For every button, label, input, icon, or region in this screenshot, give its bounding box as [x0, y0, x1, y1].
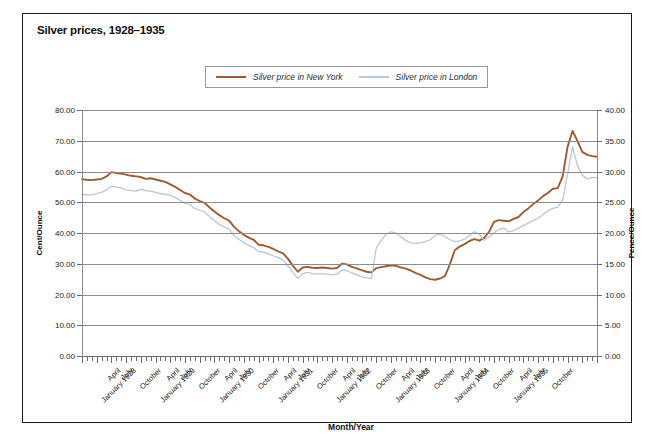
x-axis-tick: [499, 356, 500, 361]
y-axis-right-tick-label: 15.00: [605, 259, 625, 268]
y-axis-left-tick-label: 50.00: [23, 198, 75, 207]
left-axis-title-text: Cent/Ounce: [35, 211, 44, 256]
x-axis-tick: [411, 356, 412, 361]
x-axis-tick: [592, 356, 593, 361]
y-axis-right-tick: [597, 202, 602, 203]
y-axis-left-tick: [77, 356, 82, 357]
x-axis-tick: [97, 356, 98, 363]
x-axis-tick: [308, 356, 309, 361]
x-axis-tick: [553, 356, 554, 363]
x-axis-tick: [420, 356, 421, 363]
x-axis-tick: [519, 356, 520, 361]
x-axis-tick: [386, 356, 387, 361]
x-axis-tick: [234, 356, 235, 361]
y-axis-right-tick-label: 10.00: [605, 290, 625, 299]
y-axis-left-tick: [77, 264, 82, 265]
x-axis-tick: [460, 356, 461, 361]
page-title: Silver prices, 1928–1935: [37, 24, 165, 36]
y-axis-right-tick-label: 5.00: [605, 321, 621, 330]
x-axis-tick: [504, 356, 505, 361]
x-axis-tick: [533, 356, 534, 361]
x-axis-tick: [224, 356, 225, 361]
x-axis-tick: [597, 356, 598, 363]
x-axis-tick-label: October: [138, 366, 163, 391]
x-axis-tick: [450, 356, 451, 363]
gridline: [82, 264, 597, 265]
y-axis-right-tick: [597, 295, 602, 296]
x-axis-tick: [322, 356, 323, 361]
x-axis-tick: [347, 356, 348, 363]
x-axis-tick: [131, 356, 132, 361]
gridline: [82, 233, 597, 234]
x-axis-tick: [249, 356, 250, 361]
x-axis-tick: [425, 356, 426, 361]
y-axis-right-tick-label: 25.00: [605, 198, 625, 207]
legend-swatch-london: [359, 76, 389, 78]
x-axis-tick: [151, 356, 152, 361]
right-axis-title-text: Pence/Ounce: [627, 208, 636, 259]
x-axis-tick: [210, 356, 211, 361]
x-axis-tick: [391, 356, 392, 363]
x-axis-tick: [572, 356, 573, 361]
y-axis-right-tick-label: 0.00: [605, 352, 621, 361]
x-axis-tick: [82, 356, 83, 363]
x-axis-tick-label: October: [256, 366, 281, 391]
x-axis-tick: [523, 356, 524, 363]
x-axis-tick: [273, 356, 274, 363]
y-axis-right-tick-label: 40.00: [605, 106, 625, 115]
y-axis-left-tick: [77, 141, 82, 142]
x-axis-tick: [479, 356, 480, 363]
y-axis-left-tick-label: 80.00: [23, 106, 75, 115]
x-axis-tick: [327, 356, 328, 361]
x-axis-tick-label: October: [432, 366, 457, 391]
x-axis: [82, 356, 597, 357]
x-axis-tick: [514, 356, 515, 361]
x-axis-tick: [381, 356, 382, 361]
y-axis-right-tick: [597, 264, 602, 265]
y-axis-right-tick: [597, 172, 602, 173]
x-axis-tick: [568, 356, 569, 363]
legend-item-london: Silver price in London: [359, 72, 478, 82]
x-axis-tick-label: October: [373, 366, 398, 391]
y-axis-right-tick: [597, 325, 602, 326]
x-axis-tick: [219, 356, 220, 361]
x-axis-tick: [111, 356, 112, 363]
x-axis-tick: [435, 356, 436, 363]
x-axis-tick: [484, 356, 485, 361]
x-axis-tick: [102, 356, 103, 361]
legend-label-london: Silver price in London: [396, 72, 478, 82]
x-axis-tick: [474, 356, 475, 361]
x-axis-tick: [278, 356, 279, 361]
y-axis-right-tick: [597, 110, 602, 111]
x-axis-tick: [577, 356, 578, 361]
x-axis-tick: [283, 356, 284, 361]
x-axis-tick: [494, 356, 495, 363]
x-axis-tick: [107, 356, 108, 361]
x-axis-tick: [92, 356, 93, 361]
x-axis-tick: [313, 356, 314, 361]
x-axis-tick: [352, 356, 353, 361]
x-axis-tick: [455, 356, 456, 361]
y-axis-left-tick: [77, 325, 82, 326]
x-axis-tick: [200, 356, 201, 363]
x-axis-tick: [136, 356, 137, 361]
x-axis-tick: [543, 356, 544, 361]
x-axis-tick: [121, 356, 122, 361]
chart-figure: Silver prices, 1928–1935 Silver price in…: [22, 13, 632, 423]
gridline: [82, 141, 597, 142]
x-axis-tick: [416, 356, 417, 361]
gridline: [82, 110, 597, 111]
x-axis-tick: [259, 356, 260, 363]
x-axis-tick: [229, 356, 230, 363]
y-axis-left-tick-label: 10.00: [23, 321, 75, 330]
gridline: [82, 325, 597, 326]
x-axis-tick: [558, 356, 559, 361]
x-axis-tick: [406, 356, 407, 363]
y-axis-left-tick: [77, 172, 82, 173]
x-axis-tick: [538, 356, 539, 363]
y-axis-right-tick-label: 30.00: [605, 167, 625, 176]
legend-item-new-york: Silver price in New York: [216, 72, 343, 82]
x-axis-tick: [268, 356, 269, 361]
x-axis-tick: [205, 356, 206, 361]
x-axis-tick: [254, 356, 255, 361]
